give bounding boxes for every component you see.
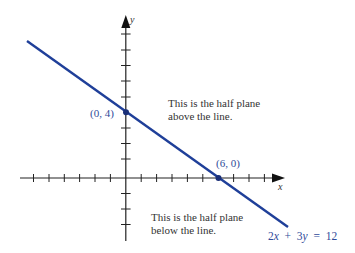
x-axis [20, 174, 285, 183]
eq-var-y: y [303, 230, 308, 242]
above-region-line2: above the line. [168, 110, 260, 123]
point-label-6-0: (6, 0) [216, 157, 240, 170]
below-region-line2: below the line. [151, 224, 243, 237]
y-axis-label: y [130, 14, 134, 27]
above-region-text: This is the half plane above the line. [168, 97, 260, 122]
below-region-line1: This is the half plane [151, 211, 243, 224]
point-6-0-dot [216, 175, 222, 181]
eq-var-x: x [274, 230, 279, 242]
x-axis-label: x [278, 181, 282, 194]
below-region-text: This is the half plane below the line. [151, 211, 243, 236]
y-axis [121, 15, 131, 241]
point-0-4-dot [123, 109, 129, 115]
point-label-0-4: (0, 4) [90, 107, 114, 120]
y-axis-arrow-icon [121, 15, 130, 28]
equation-label: 2x + 3y = 12 [268, 230, 337, 243]
eq-plus: + [285, 230, 292, 242]
boundary-line [27, 41, 288, 227]
eq-equals: = [313, 230, 320, 242]
above-region-line1: This is the half plane [168, 97, 260, 110]
eq-const: 12 [326, 230, 338, 242]
